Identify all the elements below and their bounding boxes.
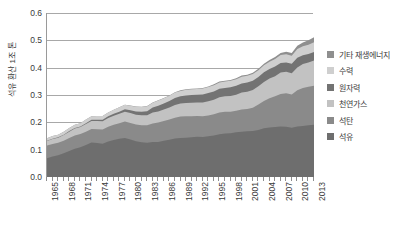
x-tick-mark bbox=[102, 177, 103, 181]
legend-item[interactable]: 기타 재생에너지 bbox=[327, 46, 413, 63]
x-tick-mark bbox=[246, 177, 247, 181]
x-tick-mark bbox=[52, 177, 53, 181]
x-tick-label: 2004 bbox=[267, 182, 277, 201]
y-tick-label: 0.1 bbox=[14, 145, 42, 155]
legend-item[interactable]: 석유 bbox=[327, 129, 413, 146]
x-tick-label: 1968 bbox=[67, 182, 77, 201]
legend-item[interactable]: 천연가스 bbox=[327, 96, 413, 113]
x-axis-tick-labels: 1965196819711974197719801983198619891992… bbox=[46, 182, 313, 236]
x-tick-mark bbox=[224, 177, 225, 181]
legend-label: 석탄 bbox=[339, 115, 353, 126]
legend-label: 석유 bbox=[339, 131, 353, 142]
x-tick-mark bbox=[152, 177, 153, 181]
x-tick-mark bbox=[302, 177, 303, 181]
legend-label: 원자력 bbox=[339, 82, 360, 93]
y-tick-label: 0.6 bbox=[14, 8, 42, 18]
x-tick-label: 2010 bbox=[300, 182, 310, 201]
x-tick-mark bbox=[113, 177, 114, 181]
x-tick-label: 2013 bbox=[317, 182, 327, 201]
legend-swatch-icon bbox=[327, 100, 334, 107]
y-tick-label: 0.4 bbox=[14, 63, 42, 73]
x-tick-mark bbox=[118, 177, 119, 181]
y-tick-label: 0.0 bbox=[14, 172, 42, 182]
x-tick-mark bbox=[218, 177, 219, 181]
legend-swatch-icon bbox=[327, 133, 334, 140]
x-tick-mark bbox=[168, 177, 169, 181]
x-tick-mark bbox=[235, 177, 236, 181]
x-tick-mark bbox=[191, 177, 192, 181]
x-tick-mark bbox=[263, 177, 264, 181]
legend-swatch-icon bbox=[327, 84, 334, 91]
x-tick-mark bbox=[207, 177, 208, 181]
x-tick-mark bbox=[307, 177, 308, 181]
x-tick-mark bbox=[285, 177, 286, 181]
x-tick-mark bbox=[213, 177, 214, 181]
x-tick-label: 1977 bbox=[117, 182, 127, 201]
x-tick-label: 1986 bbox=[167, 182, 177, 201]
x-tick-label: 1998 bbox=[234, 182, 244, 201]
x-tick-mark bbox=[141, 177, 142, 181]
x-tick-mark bbox=[274, 177, 275, 181]
x-tick-mark bbox=[124, 177, 125, 181]
legend-label: 기타 재생에너지 bbox=[339, 49, 389, 60]
x-tick-label: 2007 bbox=[284, 182, 294, 201]
x-tick-mark bbox=[185, 177, 186, 181]
x-tick-mark bbox=[74, 177, 75, 181]
y-tick-label: 0.3 bbox=[14, 90, 42, 100]
x-tick-mark bbox=[180, 177, 181, 181]
x-tick-mark bbox=[196, 177, 197, 181]
x-tick-mark bbox=[79, 177, 80, 181]
plot-area bbox=[46, 13, 313, 177]
legend-item[interactable]: 원자력 bbox=[327, 79, 413, 96]
x-tick-label: 1983 bbox=[150, 182, 160, 201]
legend: 기타 재생에너지수력원자력천연가스석탄석유 bbox=[327, 46, 413, 145]
legend-item[interactable]: 석탄 bbox=[327, 112, 413, 129]
y-tick-label: 0.5 bbox=[14, 35, 42, 45]
y-axis-tick-labels: 0.00.10.20.30.40.50.6 bbox=[12, 0, 42, 236]
x-tick-mark bbox=[291, 177, 292, 181]
x-tick-mark bbox=[57, 177, 58, 181]
x-tick-mark bbox=[85, 177, 86, 181]
x-tick-label: 1965 bbox=[50, 182, 60, 201]
x-tick-mark bbox=[129, 177, 130, 181]
legend-label: 천연가스 bbox=[339, 98, 367, 109]
legend-item[interactable]: 수력 bbox=[327, 63, 413, 80]
x-tick-mark bbox=[107, 177, 108, 181]
x-tick-label: 2001 bbox=[250, 182, 260, 201]
x-tick-mark bbox=[163, 177, 164, 181]
x-tick-mark bbox=[269, 177, 270, 181]
x-tick-mark bbox=[68, 177, 69, 181]
x-tick-mark bbox=[157, 177, 158, 181]
x-tick-mark bbox=[135, 177, 136, 181]
x-tick-mark bbox=[96, 177, 97, 181]
x-tick-mark bbox=[296, 177, 297, 181]
x-tick-label: 1989 bbox=[184, 182, 194, 201]
x-tick-mark bbox=[91, 177, 92, 181]
x-tick-label: 1980 bbox=[133, 182, 143, 201]
legend-swatch-icon bbox=[327, 117, 334, 124]
legend-swatch-icon bbox=[327, 51, 334, 58]
x-tick-mark bbox=[257, 177, 258, 181]
x-tick-mark bbox=[313, 177, 314, 181]
x-tick-mark bbox=[46, 177, 47, 181]
x-tick-label: 1971 bbox=[83, 182, 93, 201]
x-tick-mark bbox=[63, 177, 64, 181]
x-tick-mark bbox=[280, 177, 281, 181]
x-tick-mark bbox=[174, 177, 175, 181]
x-tick-label: 1995 bbox=[217, 182, 227, 201]
x-tick-mark bbox=[202, 177, 203, 181]
x-tick-mark bbox=[241, 177, 242, 181]
x-tick-label: 1974 bbox=[100, 182, 110, 201]
area-series-group bbox=[47, 13, 314, 177]
legend-swatch-icon bbox=[327, 67, 334, 74]
y-tick-label: 0.2 bbox=[14, 117, 42, 127]
legend-label: 수력 bbox=[339, 65, 353, 76]
x-tick-mark bbox=[252, 177, 253, 181]
x-tick-mark bbox=[230, 177, 231, 181]
x-tick-mark bbox=[146, 177, 147, 181]
x-tick-label: 1992 bbox=[200, 182, 210, 201]
stacked-area-chart: 석유 환산 1조 톤 0.00.10.20.30.40.50.6 1965196… bbox=[0, 0, 413, 236]
